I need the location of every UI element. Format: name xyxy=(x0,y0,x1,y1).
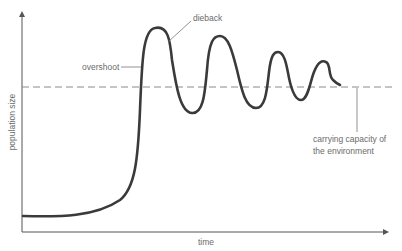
overshoot-label: overshoot xyxy=(82,62,120,72)
population-curve xyxy=(23,28,340,217)
axes xyxy=(22,14,386,232)
y-axis-label: population size xyxy=(7,93,17,150)
population-curve-diagram: overshoot dieback carrying capacity of t… xyxy=(0,0,402,251)
x-axis-label: time xyxy=(198,237,214,247)
carrying-capacity-label-line1: carrying capacity of xyxy=(313,134,387,144)
dieback-leader xyxy=(168,21,191,42)
carrying-capacity-label-line2: the environment xyxy=(313,146,375,156)
dieback-label: dieback xyxy=(193,13,223,23)
